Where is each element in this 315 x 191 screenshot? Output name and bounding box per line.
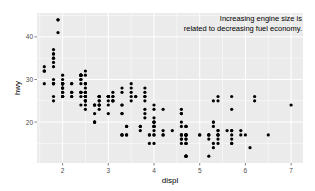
data-point (111, 91, 114, 94)
data-point (52, 99, 55, 102)
data-point (180, 125, 183, 128)
data-point (111, 95, 114, 98)
data-point (43, 65, 46, 68)
data-point (148, 133, 151, 136)
data-point (79, 78, 82, 81)
data-point (79, 91, 82, 94)
data-point (248, 146, 251, 149)
y-tick-label: 20 (26, 119, 34, 126)
data-point (84, 103, 87, 106)
chart-annotation: Increasing engine size is related to dec… (184, 14, 302, 34)
data-point (130, 82, 133, 85)
data-point (52, 65, 55, 68)
data-point (84, 74, 87, 77)
data-point (111, 99, 114, 102)
data-point (230, 129, 233, 132)
data-point (134, 95, 137, 98)
data-point (120, 133, 123, 136)
data-point (98, 103, 101, 106)
data-point (61, 74, 64, 77)
data-point (143, 108, 146, 111)
data-point (230, 95, 233, 98)
y-axis-label: hwy (13, 81, 22, 95)
data-point (84, 86, 87, 89)
data-point (184, 125, 187, 128)
data-point (184, 138, 187, 141)
data-point (93, 112, 96, 115)
data-point (216, 142, 219, 145)
data-point (184, 155, 187, 158)
data-point (52, 78, 55, 81)
data-point (107, 112, 110, 115)
y-axis: 203040 (26, 33, 37, 125)
data-point (148, 142, 151, 145)
data-point (125, 133, 128, 136)
data-point (120, 91, 123, 94)
x-axis: 234567 (61, 163, 294, 174)
annotation-line-1: Increasing engine size is (184, 14, 302, 24)
data-point (107, 99, 110, 102)
annotation-line-2: related to decreasing fuel economy. (184, 24, 302, 34)
data-point (162, 133, 165, 136)
data-point (107, 95, 110, 98)
data-point (43, 82, 46, 85)
data-point (207, 138, 210, 141)
data-point (52, 82, 55, 85)
data-point (61, 78, 64, 81)
data-point (84, 82, 87, 85)
data-point (143, 91, 146, 94)
data-point (180, 108, 183, 111)
data-point (226, 129, 229, 132)
data-point (267, 133, 270, 136)
data-point (143, 86, 146, 89)
data-point (143, 112, 146, 115)
data-point (43, 69, 46, 72)
data-point (239, 133, 242, 136)
data-point (79, 103, 82, 106)
data-point (244, 133, 247, 136)
data-point (184, 133, 187, 136)
data-point (290, 103, 293, 106)
data-point (216, 95, 219, 98)
data-point (180, 112, 183, 115)
data-point (212, 125, 215, 128)
data-point (184, 142, 187, 145)
x-tick-label: 6 (244, 167, 248, 174)
data-point (253, 95, 256, 98)
data-point (152, 103, 155, 106)
data-point (239, 129, 242, 132)
data-point (70, 82, 73, 85)
data-point (52, 95, 55, 98)
data-point (152, 125, 155, 128)
data-point (230, 142, 233, 145)
x-tick-label: 3 (106, 167, 110, 174)
data-point (130, 99, 133, 102)
data-point (216, 129, 219, 132)
plot-panel (37, 13, 303, 163)
data-point (130, 91, 133, 94)
x-axis-label: displ (162, 176, 179, 185)
data-point (162, 108, 165, 111)
data-point (98, 99, 101, 102)
data-point (61, 91, 64, 94)
data-point (180, 142, 183, 145)
x-tick-label: 2 (61, 167, 65, 174)
data-point (139, 125, 142, 128)
data-point (98, 108, 101, 111)
data-point (162, 129, 165, 132)
data-point (52, 57, 55, 60)
data-point (212, 121, 215, 124)
data-point (98, 95, 101, 98)
data-point (230, 133, 233, 136)
data-point (52, 52, 55, 55)
data-point (84, 95, 87, 98)
data-point (180, 133, 183, 136)
data-point (180, 138, 183, 141)
data-point (152, 133, 155, 136)
y-tick-label: 40 (26, 33, 34, 40)
x-tick-label: 7 (289, 167, 293, 174)
data-point (216, 138, 219, 141)
data-point (143, 99, 146, 102)
data-point (79, 82, 82, 85)
data-point (61, 86, 64, 89)
